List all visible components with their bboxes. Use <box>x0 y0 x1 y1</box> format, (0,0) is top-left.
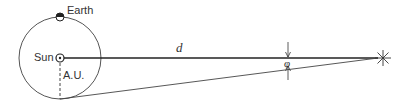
sun-icon <box>56 54 64 62</box>
au-label: A.U. <box>63 69 84 81</box>
star-icon <box>375 50 391 66</box>
angle-label: φ <box>284 57 290 69</box>
earth-star-line <box>60 58 378 99</box>
sun-label: Sun <box>34 51 54 63</box>
earth-icon <box>56 13 64 21</box>
diagram-canvas: Earth Sun A.U. d φ <box>0 0 414 104</box>
earth-label: Earth <box>67 4 93 16</box>
parallax-diagram: Earth Sun A.U. d φ <box>0 0 414 104</box>
distance-label: d <box>176 40 183 55</box>
